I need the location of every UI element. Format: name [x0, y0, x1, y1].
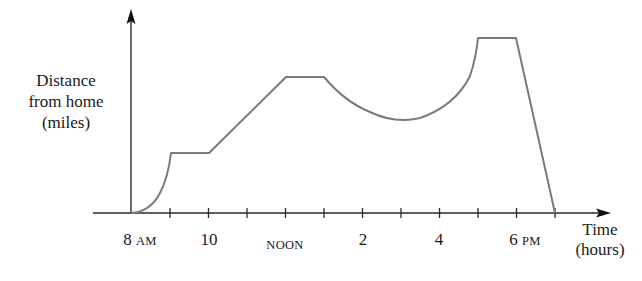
y-label-line1: Distance	[2, 70, 130, 91]
tick-label-noon: NOON	[266, 234, 303, 254]
tick-label-8am: 8 AM	[123, 230, 157, 250]
tick-noon-text: NOON	[266, 238, 303, 252]
tick-8-suffix: AM	[136, 234, 157, 248]
y-label-line3: (miles)	[2, 112, 130, 133]
x-axis-label: Time (hours)	[560, 220, 640, 260]
y-label-line2: from home	[2, 91, 130, 112]
tick-6-number: 6	[509, 230, 518, 249]
tick-8-number: 8	[123, 230, 132, 249]
tick-label-10: 10	[201, 230, 218, 250]
distance-time-chart	[0, 0, 642, 281]
tick-label-4: 4	[435, 230, 444, 250]
tick-6-suffix: PM	[522, 234, 541, 248]
x-label-line2: (hours)	[560, 240, 640, 260]
tick-label-6pm: 6 PM	[509, 230, 540, 250]
y-axis-label: Distance from home (miles)	[2, 70, 130, 133]
tick-label-2: 2	[359, 230, 368, 250]
distance-curve	[131, 38, 555, 213]
x-label-line1: Time	[560, 220, 640, 240]
